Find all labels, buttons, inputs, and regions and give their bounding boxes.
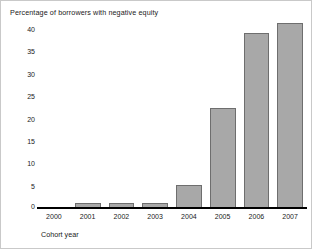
bar-slot: [172, 21, 206, 208]
y-tick-label: 35: [11, 48, 35, 55]
bar-2007: [277, 23, 303, 208]
bar-slot: [206, 21, 240, 208]
y-tick-label: 15: [11, 137, 35, 144]
bar-slot: [105, 21, 139, 208]
y-tick-label: 0: [11, 203, 35, 210]
bar-2005: [210, 108, 236, 209]
y-tick-label: 10: [11, 160, 35, 167]
bar-slot: [273, 21, 307, 208]
y-tick-label: 40: [11, 26, 35, 33]
y-tick-label: 25: [11, 93, 35, 100]
bar-slot: [138, 21, 172, 208]
x-tick-label: 2007: [270, 213, 310, 220]
bar-2006: [244, 33, 270, 208]
bar-series: [37, 21, 307, 208]
y-tick-label: 5: [11, 182, 35, 189]
y-tick-label: 30: [11, 70, 35, 77]
bar-slot: [240, 21, 274, 208]
x-axis-title: Cohort year: [41, 230, 79, 239]
bar-2004: [176, 185, 202, 208]
x-axis-line: [37, 207, 307, 209]
bar-slot: [37, 21, 71, 208]
chart-figure: Percentage of borrowers with negative eq…: [0, 0, 312, 249]
y-tick-label: 20: [11, 115, 35, 122]
plot-area: 40 35 30 25 20 15 10 5 0 2000 2001 2002 …: [1, 1, 312, 249]
bar-slot: [71, 21, 105, 208]
